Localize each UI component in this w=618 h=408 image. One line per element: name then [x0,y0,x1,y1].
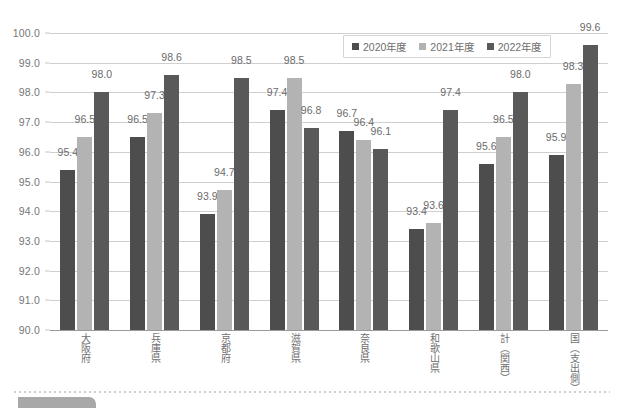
bar[interactable]: 96.8 [304,128,319,330]
bar-value-label: 97.3 [144,89,165,101]
bar[interactable]: 98.5 [287,78,302,330]
legend-label: 2020年度 [363,39,406,54]
x-axis-tick: 和歌山県 [399,333,469,395]
bar-group: 93.994.798.5 [190,33,260,330]
bar-value-label: 96.1 [370,125,391,137]
bar-value-label: 96.8 [301,104,322,116]
dotted-divider [14,391,610,393]
bar-slot: 96.7 [339,33,354,330]
bar[interactable]: 93.4 [409,229,424,330]
y-axis: 100.099.098.097.096.095.094.093.092.091.… [0,33,46,330]
x-axis-tick: 大阪府 [50,333,120,395]
bar-group: 95.496.598.0 [50,33,120,330]
bar-group: 96.796.496.1 [329,33,399,330]
bar-group: 96.597.398.6 [120,33,190,330]
bar-value-label: 98.5 [284,54,305,66]
bar-slot: 97.4 [443,33,458,330]
bar-value-label: 94.7 [214,166,235,178]
y-axis-tick-label: 90.0 [19,324,40,336]
bar[interactable]: 95.6 [479,164,494,330]
bar[interactable]: 98.3 [566,84,581,331]
bar-slot: 95.4 [60,33,75,330]
bar-slot: 93.4 [409,33,424,330]
bar-value-label: 96.5 [493,113,514,125]
bar-chart: 100.099.098.097.096.095.094.093.092.091.… [0,0,618,408]
bar[interactable]: 99.6 [583,45,598,330]
x-axis-tick: 滋賀県 [259,333,329,395]
bar-group: 93.493.697.4 [399,33,469,330]
bar[interactable]: 96.4 [356,140,371,330]
bar-slot: 95.9 [549,33,564,330]
bar[interactable]: 97.4 [270,110,285,330]
x-axis-tick-label: 京都府 [219,333,229,363]
bar-slot: 94.7 [217,33,232,330]
y-axis-tick-label: 98.0 [19,86,40,98]
bar-slot: 98.3 [566,33,581,330]
bar-slot: 96.5 [130,33,145,330]
bar-slot: 96.5 [496,33,511,330]
bar[interactable]: 98.5 [234,78,249,330]
bar[interactable]: 93.9 [200,214,215,330]
bar[interactable]: 95.9 [549,155,564,330]
bar-cluster: 97.498.596.8 [270,33,319,330]
bar-cluster: 95.696.598.0 [479,33,528,330]
bar[interactable]: 98.0 [513,92,528,330]
x-axis: 大阪府兵庫県京都府滋賀県奈良県和歌山県計（関西）国（支出側） [50,333,608,395]
x-axis-tick-label: 滋賀県 [289,333,299,363]
bar[interactable]: 98.6 [164,75,179,330]
bar-value-label: 95.4 [57,146,78,158]
x-axis-tick: 計（関西） [469,333,539,395]
bar-slot: 93.6 [426,33,441,330]
bar-value-label: 98.5 [231,54,252,66]
bar-slot: 98.5 [287,33,302,330]
bar-value-label: 99.6 [580,21,601,33]
legend-item[interactable]: 2022年度 [487,39,541,54]
bar[interactable]: 94.7 [217,190,232,330]
x-axis-tick-label: 和歌山県 [429,333,439,373]
bar[interactable]: 95.4 [60,170,75,330]
y-axis-tick-label: 96.0 [19,146,40,158]
axis-baseline [50,330,608,331]
bar-slot: 96.5 [77,33,92,330]
bar[interactable]: 93.6 [426,223,441,330]
x-axis-tick-label: 計（関西） [498,333,508,383]
bar-slot: 96.4 [356,33,371,330]
bar[interactable]: 96.5 [496,137,511,330]
y-axis-tick-label: 94.0 [19,205,40,217]
bar-cluster: 93.493.697.4 [409,33,458,330]
y-axis-tick-label: 99.0 [19,57,40,69]
bar-value-label: 96.5 [74,113,95,125]
bar-groups: 95.496.598.096.597.398.693.994.798.597.4… [50,33,608,330]
bar-cluster: 95.496.598.0 [60,33,109,330]
bar[interactable]: 97.3 [147,113,162,330]
x-axis-tick-label: 奈良県 [359,333,369,363]
legend-item[interactable]: 2020年度 [352,39,406,54]
y-axis-tick-label: 92.0 [19,265,40,277]
bar[interactable]: 96.7 [339,131,354,330]
bar-group: 95.696.598.0 [469,33,539,330]
bar-slot: 95.6 [479,33,494,330]
bar-cluster: 95.998.399.6 [549,33,598,330]
y-axis-tick-label: 91.0 [19,294,40,306]
bar-value-label: 93.9 [197,190,218,202]
y-axis-tick-label: 93.0 [19,235,40,247]
bar[interactable]: 96.5 [77,137,92,330]
bar-value-label: 97.4 [267,86,288,98]
bar-value-label: 95.6 [476,140,497,152]
legend-swatch-icon [352,43,359,50]
bar-slot: 96.1 [373,33,388,330]
bar-value-label: 98.0 [91,68,112,80]
legend-item[interactable]: 2021年度 [419,39,473,54]
x-axis-tick-label: 大阪府 [80,333,90,363]
legend-swatch-icon [487,43,494,50]
bar-slot: 98.0 [94,33,109,330]
y-axis-tick-label: 95.0 [19,176,40,188]
bar[interactable]: 97.4 [443,110,458,330]
bar-value-label: 98.6 [161,51,182,63]
bar[interactable]: 98.0 [94,92,109,330]
bar-value-label: 93.6 [423,199,444,211]
bar-value-label: 98.0 [510,68,531,80]
bar-group: 95.998.399.6 [538,33,608,330]
bar[interactable]: 96.1 [373,149,388,330]
bar[interactable]: 96.5 [130,137,145,330]
